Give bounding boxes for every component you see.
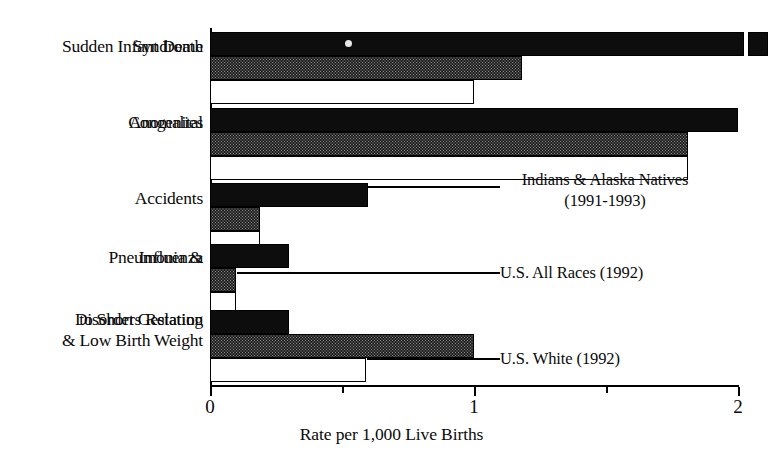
x-tick-0 (210, 387, 212, 396)
legend-indians-line2: (1991-1993) (500, 191, 710, 212)
bar-pneumonia-all-races (210, 268, 236, 292)
category-label-pneumonia: Pneumonia & Influenza (0, 247, 203, 268)
bar-disorders-all-races (210, 334, 474, 358)
bar-congenital-all-races (210, 132, 688, 156)
x-minor-tick-1.5 (606, 387, 608, 393)
x-tick-label-2: 2 (733, 396, 743, 418)
bar-accidents-indians (210, 183, 368, 207)
x-tick-label-0: 0 (205, 396, 215, 418)
category-label-sids: Sudden Infant Death Syndrome (0, 36, 203, 57)
bar-congenital-indians (210, 108, 738, 132)
legend-indians-alaska-natives: Indians & Alaska Natives (1991-1993) (500, 170, 710, 211)
x-tick-2 (738, 387, 740, 396)
category-label-sids-line2: Syndrome (0, 36, 203, 57)
category-label-disorders-line3: & Low Birth Weight (0, 330, 203, 351)
category-label-accidents-line1: Accidents (0, 188, 203, 209)
bar-sids-indians (210, 32, 744, 56)
x-minor-tick-0.5 (342, 387, 344, 393)
bar-disorders-white (210, 358, 366, 382)
bar-sids-white (210, 80, 474, 104)
x-axis-title: Rate per 1,000 Live Births (0, 424, 783, 445)
bar-disorders-indians (210, 310, 289, 334)
bar-accidents-all-races (210, 207, 260, 231)
bar-pneumonia-indians (210, 244, 289, 268)
legend-us-white: U.S. White (1992) (500, 349, 620, 370)
legend-us-all-races: U.S. All Races (1992) (500, 263, 643, 284)
category-label-disorders-line2: to Short Gestation (0, 309, 203, 330)
x-tick-label-1: 1 (469, 396, 479, 418)
category-label-disorders: Disorders Relating to Short Gestation & … (0, 309, 203, 352)
category-label-congenital: Congenital Anomalies (0, 112, 203, 133)
legend-indians-line1: Indians & Alaska Natives (522, 170, 689, 189)
scan-artifact-speckle (345, 40, 352, 47)
chart-figure: Sudden Infant Death Syndrome Congenital … (0, 0, 783, 474)
category-label-congenital-line2: Anomalies (0, 112, 203, 133)
x-tick-1 (474, 387, 476, 396)
category-label-pneumonia-line2: Influenza (0, 247, 203, 268)
leader-line-white (367, 358, 500, 360)
leader-line-all-races (237, 272, 500, 274)
leader-line-indians (367, 186, 500, 188)
bar-sids-all-races (210, 56, 522, 80)
bar-sids-indians-overflow (748, 32, 768, 56)
